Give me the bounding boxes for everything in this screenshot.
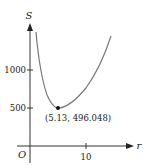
x-axis-arrow-icon (126, 143, 134, 149)
origin-label: O (18, 149, 26, 160)
y-tick-label-1000: 1000 (4, 65, 26, 75)
x-axis-label: r (137, 140, 143, 151)
minimum-point-label: (5.13, 496.048) (45, 113, 111, 123)
y-axis-arrow-icon (27, 23, 33, 31)
y-tick-label-500: 500 (10, 103, 26, 113)
curve-s-of-r (36, 32, 111, 108)
y-axis-label: S (26, 10, 33, 21)
chart: S r O 1000 500 10 (5.13, 496.048) (0, 0, 149, 168)
minimum-point (56, 106, 60, 110)
x-tick-label-10: 10 (81, 152, 92, 162)
